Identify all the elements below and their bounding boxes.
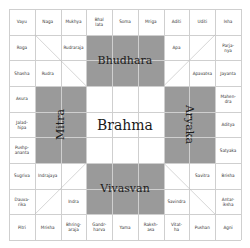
deity-gandharva: Gandr- harva xyxy=(86,214,112,240)
deity-savitra: Savitra xyxy=(189,163,215,189)
deity-vivasvan: Vivasvan xyxy=(86,163,163,214)
deity-apavatsa: Apavatsa xyxy=(189,60,215,86)
deity-brisha: Brisha xyxy=(215,163,241,189)
deity-shasha: Shasha xyxy=(9,60,35,86)
deity-apa: Apa xyxy=(164,35,190,61)
deity-pushan: Pushan xyxy=(189,214,215,240)
deity-dauvarika: Dauva- rika xyxy=(9,189,35,215)
deity-savindra: Savindra xyxy=(164,189,190,215)
deity-rudra: Rudra xyxy=(35,60,61,86)
deity-agni: Agni xyxy=(215,214,241,240)
deity-indra: Indra xyxy=(61,189,87,215)
deity-isha: Isha xyxy=(215,9,241,35)
deity-aditi: Aditi xyxy=(164,9,190,35)
deity-indrajaya: Indrajaya xyxy=(35,163,61,189)
deity-bhringaraja: Bhring- araja xyxy=(61,214,87,240)
deity-antariksha: Antar- iksha xyxy=(215,189,241,215)
deity-mukhya: Mukhya xyxy=(61,9,87,35)
deity-yama: Yama xyxy=(112,214,138,240)
vastu-mandala: Vayu Naga Mukhya Bhal lata Soma Mrigа Ad… xyxy=(9,9,241,240)
deity-naga: Naga xyxy=(35,9,61,35)
deity-bhudhara: Bhudhara xyxy=(86,35,163,86)
deity-pitri: Pitri xyxy=(9,214,35,240)
deity-roga: Roga xyxy=(9,35,35,61)
deity-mriga: Mrigа xyxy=(138,9,164,35)
deity-bhallata: Bhal lata xyxy=(86,9,112,35)
deity-rudraraja: Rudraraja xyxy=(61,35,87,61)
deity-parjanya: Parja- nya xyxy=(215,35,241,61)
grid-line-vertical xyxy=(241,9,242,240)
deity-soma: Soma xyxy=(112,9,138,35)
deity-uditi: Uditi xyxy=(189,9,215,35)
deity-mrisha: Mrisha xyxy=(35,214,61,240)
deity-jayanta: Jayanta xyxy=(215,60,241,86)
deity-brahma: Brahma xyxy=(86,86,163,163)
deity-vayu: Vayu xyxy=(9,9,35,35)
deity-rakshasa: Raksh- asa xyxy=(138,214,164,240)
deity-vitatha: Vitat- ha xyxy=(164,214,190,240)
grid-line-horizontal xyxy=(9,240,241,241)
deity-sugriva: Sugriva xyxy=(9,163,35,189)
